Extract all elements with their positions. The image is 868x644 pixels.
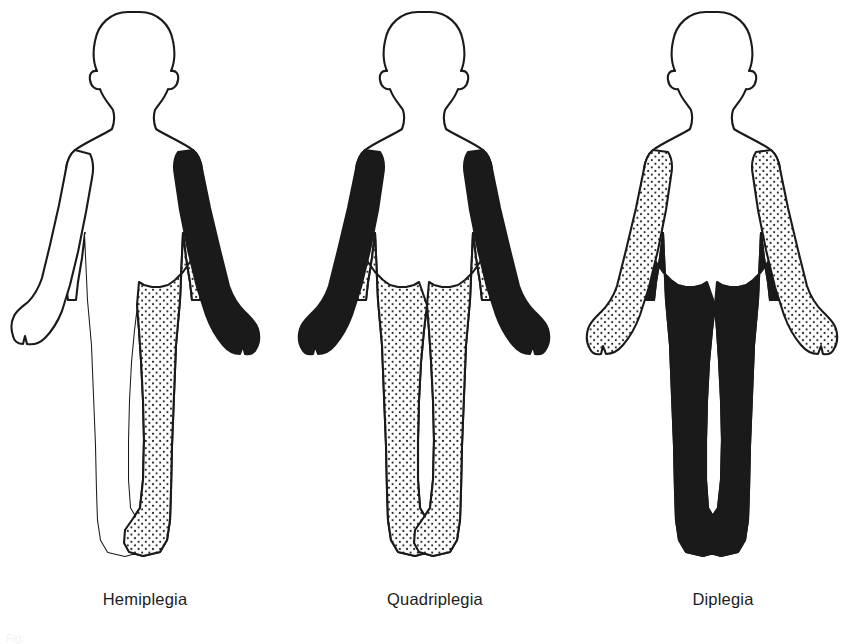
- body-diagram-hemiplegia: [0, 0, 290, 580]
- figure-panel-hemiplegia: Hemiplegia: [0, 0, 290, 641]
- figure-caption-diplegia: Diplegia: [578, 590, 868, 609]
- body-diagram-quadriplegia: [290, 0, 580, 580]
- head-neck-torso-outline: [642, 12, 782, 556]
- head-neck-torso-outline: [354, 12, 494, 556]
- body-diagram-diplegia: [578, 0, 868, 580]
- bottom-cut-caption: Fig.: [6, 632, 24, 644]
- figure-caption-quadriplegia: Quadriplegia: [290, 590, 580, 609]
- figure-panel-diplegia: Diplegia: [578, 0, 868, 641]
- figure-panel-quadriplegia: Quadriplegia: [290, 0, 580, 641]
- head-neck-torso-outline: [64, 12, 204, 556]
- figure-caption-hemiplegia: Hemiplegia: [0, 590, 290, 609]
